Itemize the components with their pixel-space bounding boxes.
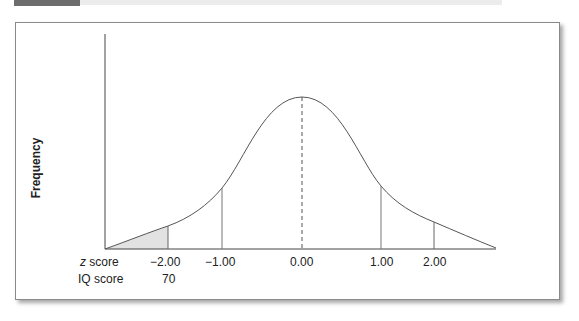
tick-z-0: 0.00 (290, 255, 313, 269)
tick-z-neg1: −1.00 (205, 255, 235, 269)
z-italic: z (80, 255, 86, 269)
y-axis-label: Frequency (29, 118, 43, 218)
normal-curve (105, 97, 496, 249)
iq-value-70: 70 (162, 272, 175, 286)
tick-z-pos2: 2.00 (423, 255, 446, 269)
z-score-label: z score (80, 255, 119, 269)
z-score-text: score (89, 255, 118, 269)
iq-score-label: IQ score (78, 272, 123, 286)
tick-z-pos1: 1.00 (370, 255, 393, 269)
tick-z-neg2: −2.00 (150, 255, 180, 269)
